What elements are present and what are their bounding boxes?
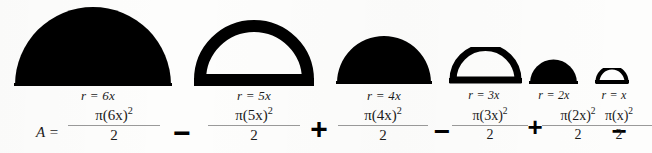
fraction-3x-exponent: 2 <box>503 106 508 116</box>
fraction-4x-denominator: 2 <box>338 127 428 143</box>
fraction-3x-denominator: 2 <box>452 127 528 142</box>
radius-label-5x: r = 5x <box>214 88 294 104</box>
fraction-5x-denominator: 2 <box>208 127 300 143</box>
fraction-1x-numerator: π(x)2 <box>586 107 652 124</box>
fraction-1x-numerator-text: π(x) <box>605 108 628 123</box>
fraction-6x-numerator-text: π(6x) <box>95 107 128 123</box>
fraction-6x-denominator: 2 <box>68 127 160 143</box>
fraction-5x-numerator: π(5x)2 <box>208 106 300 124</box>
semicircle-figure-5x <box>194 18 314 86</box>
semicircle-figure-4x <box>336 32 432 85</box>
fraction-6x: π(6x)2 2 <box>68 106 160 143</box>
semicircle-filled-6x <box>14 6 172 86</box>
fraction-3x: π(3x)2 2 <box>452 107 528 142</box>
fraction-5x-exponent: 2 <box>268 105 273 116</box>
operator-minus-1: − <box>166 118 198 148</box>
fraction-6x-numerator: π(6x)2 <box>68 106 160 124</box>
fraction-5x-numerator-text: π(5x) <box>235 107 268 123</box>
fraction-3x-bar <box>452 125 528 126</box>
radius-label-4x: r = 4x <box>344 88 424 104</box>
operator-plus-1: + <box>304 114 334 144</box>
fraction-3x-numerator: π(3x)2 <box>452 107 528 124</box>
fraction-6x-bar <box>68 125 160 126</box>
fraction-4x-numerator: π(4x)2 <box>338 106 428 124</box>
semicircle-figure-3x <box>449 47 522 85</box>
fraction-5x: π(5x)2 2 <box>208 106 300 143</box>
semicircle-figure-1x <box>595 68 629 85</box>
semicircle-figure-2x <box>529 59 578 85</box>
fraction-5x-bar <box>208 125 300 126</box>
radius-label-6x: r = 6x <box>58 88 138 104</box>
semicircle-outline-1x <box>595 68 629 85</box>
fraction-6x-exponent: 2 <box>128 105 133 116</box>
fraction-4x-numerator-text: π(4x) <box>364 107 397 123</box>
fraction-1x-exponent: 2 <box>628 106 633 116</box>
area-equation-lead: A = <box>36 124 59 141</box>
fraction-1x-bar <box>586 125 652 126</box>
fraction-3x-numerator-text: π(3x) <box>472 108 502 123</box>
semicircle-figure-6x <box>14 6 172 86</box>
fraction-4x-bar <box>338 125 428 126</box>
fraction-1x: π(x)2 2 <box>586 107 652 142</box>
semicircle-filled-2x <box>529 59 578 85</box>
semicircle-outline-3x <box>449 47 522 85</box>
semicircle-outline-5x <box>194 18 314 86</box>
fraction-4x: π(4x)2 2 <box>338 106 428 143</box>
fraction-4x-exponent: 2 <box>397 105 402 116</box>
radius-label-1x: r = x <box>578 88 650 103</box>
fraction-1x-denominator: 2 <box>586 127 652 142</box>
radius-label-3x: r = 3x <box>446 88 522 103</box>
semicircle-filled-4x <box>336 32 432 85</box>
